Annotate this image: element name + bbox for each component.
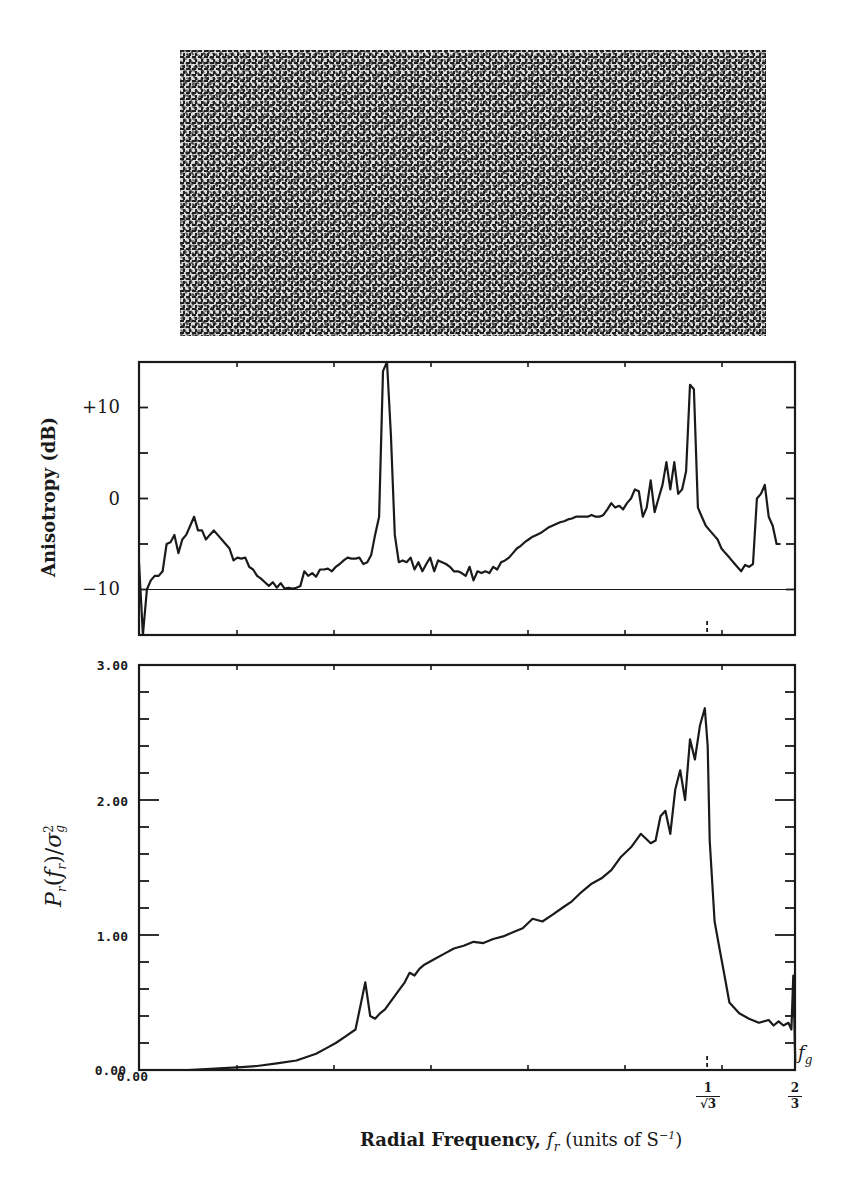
- x-axis-title: Radial Frequency, fr (units of S−1): [360, 1129, 682, 1154]
- xtick-origin: 0.00: [98, 1069, 148, 1084]
- anisotropy-axis-title: Anisotropy (dB): [38, 412, 62, 582]
- ytick-2: 2.00: [78, 794, 128, 809]
- ytick-plus10: +10: [60, 396, 120, 417]
- power-axis-title: Pr(fr)/σ2g: [41, 796, 69, 936]
- fg-marker-label: fg: [798, 1042, 812, 1067]
- figure-plots: [0, 0, 850, 1183]
- ytick-0: 0: [60, 488, 120, 509]
- power-spectrum-chart: [139, 665, 795, 1070]
- xtick-two-thirds: 2 3: [788, 1082, 802, 1111]
- ytick-3: 3.00: [78, 658, 128, 673]
- ytick-1: 1.00: [78, 929, 128, 944]
- anisotropy-chart: [139, 362, 795, 635]
- ytick-minus10: −10: [60, 578, 120, 599]
- xtick-inv-sqrt3: 1 √3: [696, 1082, 720, 1111]
